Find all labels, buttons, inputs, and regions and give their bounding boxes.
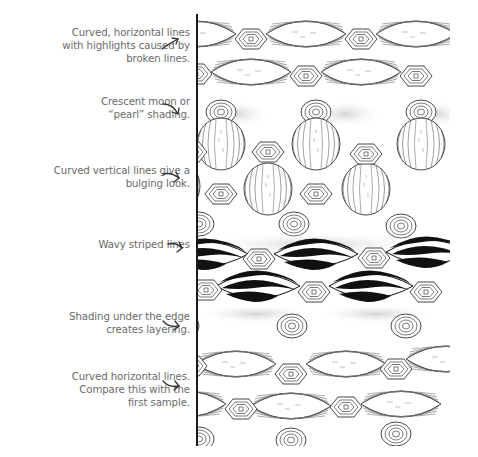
- band-horizontal-broken: [196, 21, 450, 86]
- left-border-line: [196, 14, 198, 446]
- pattern-drawing: [196, 14, 450, 446]
- caption-line: broken lines.: [62, 52, 190, 65]
- arrow-curve-down-right-icon: [161, 100, 183, 118]
- band-shading-layering: [196, 304, 436, 338]
- band-curved-horizontal: [196, 346, 450, 446]
- band-vertical-bulging: [196, 118, 445, 238]
- caption-line: first sample.: [72, 396, 190, 409]
- arrow-curve-right-icon: [161, 376, 183, 394]
- arrow-curve-right-icon: [161, 316, 183, 334]
- arrow-curve-right-icon: [161, 168, 183, 186]
- zentangle-pattern-panel: [196, 14, 450, 446]
- band-wavy-striped: [196, 232, 450, 302]
- arrow-up-right-icon: [160, 35, 182, 53]
- arrow-curve-right-icon: [166, 238, 188, 256]
